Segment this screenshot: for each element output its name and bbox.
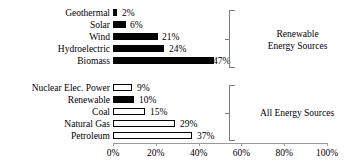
bar-value-geothermal: 2% xyxy=(122,8,135,18)
category-label-natural-gas: Natural Gas xyxy=(64,119,110,129)
category-label-hydroelectric: Hydroelectric xyxy=(58,44,110,54)
bar-geothermal xyxy=(113,9,117,16)
x-tick-80 xyxy=(284,143,285,146)
category-axis-labels: Geothermal Solar Wind Hydroelectric Biom… xyxy=(0,0,110,165)
bar-petroleum xyxy=(113,132,192,139)
bar-value-nuclear-elec-power: 9% xyxy=(137,83,150,93)
bar-wind xyxy=(113,33,158,40)
x-tick-label-20: 20% xyxy=(136,148,176,159)
plot-area: 2% 6% 21% 24% 47% 9% 10% 15% 29% 37% xyxy=(113,0,327,165)
x-tick-0 xyxy=(113,143,114,146)
category-label-geothermal: Geothermal xyxy=(65,8,110,18)
x-tick-label-100: 100% xyxy=(307,148,347,159)
bar-biomass xyxy=(113,57,214,64)
bar-value-biomass: 47% xyxy=(213,56,230,66)
bar-value-coal: 15% xyxy=(150,107,167,117)
x-tick-label-80: 80% xyxy=(264,148,304,159)
bar-coal xyxy=(113,108,145,115)
bar-value-wind: 21% xyxy=(162,32,179,42)
bar-nuclear-elec-power xyxy=(113,84,132,91)
bar-solar xyxy=(113,21,126,28)
bar-renewable xyxy=(113,96,134,103)
category-label-wind: Wind xyxy=(89,32,110,42)
group-label-all-energy-sources: All Energy Sources xyxy=(241,107,353,119)
category-label-nuclear-elec-power: Nuclear Elec. Power xyxy=(32,83,110,93)
category-label-solar: Solar xyxy=(90,20,110,30)
x-tick-40 xyxy=(199,143,200,146)
x-tick-label-40: 40% xyxy=(179,148,219,159)
bar-value-natural-gas: 29% xyxy=(180,119,197,129)
category-label-petroleum: Petroleum xyxy=(71,131,110,141)
x-tick-100 xyxy=(327,143,328,146)
bar-natural-gas xyxy=(113,120,175,127)
bar-value-petroleum: 37% xyxy=(197,131,214,141)
group-bracket-renewable-energy-sources xyxy=(229,10,235,68)
x-axis-line xyxy=(113,143,328,144)
group-bracket-nub-all-energy xyxy=(225,113,229,114)
x-tick-60 xyxy=(241,143,242,146)
x-tick-label-60: 60% xyxy=(221,148,261,159)
bar-value-hydroelectric: 24% xyxy=(169,44,186,54)
x-tick-20 xyxy=(156,143,157,146)
x-tick-label-0: 0% xyxy=(93,148,133,159)
category-label-renewable: Renewable xyxy=(68,95,110,105)
group-bracket-all-energy-sources xyxy=(229,85,235,141)
bar-hydroelectric xyxy=(113,45,164,52)
category-label-biomass: Biomass xyxy=(77,56,110,66)
bar-value-renewable: 10% xyxy=(139,95,156,105)
group-bracket-nub-renewable xyxy=(225,39,229,40)
bar-chart: Geothermal Solar Wind Hydroelectric Biom… xyxy=(0,0,354,165)
group-label-renewable-energy-sources: Renewable Energy Sources xyxy=(245,28,350,52)
bar-value-solar: 6% xyxy=(130,20,143,30)
category-label-coal: Coal xyxy=(92,107,110,117)
